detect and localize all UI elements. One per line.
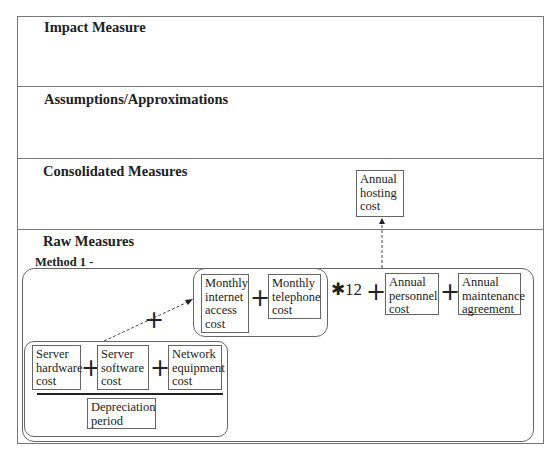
node-annual-personnel-cost: Annual personnel cost bbox=[385, 273, 439, 315]
section-divider bbox=[17, 158, 544, 159]
node-text: Depreciation bbox=[91, 401, 152, 415]
node-text: Annual bbox=[360, 173, 400, 187]
section-title-raw-measures: Raw Measures bbox=[43, 233, 134, 250]
node-annual-maintenance-agreement: Annual maintenance agreement bbox=[458, 273, 521, 315]
node-text: cost bbox=[172, 375, 218, 389]
node-depreciation-period: Depreciation period bbox=[87, 398, 156, 429]
node-text: cost bbox=[389, 303, 435, 317]
fraction-bar bbox=[37, 393, 223, 395]
node-text: Annual bbox=[462, 276, 517, 290]
node-text: internet bbox=[205, 291, 245, 305]
section-divider bbox=[17, 229, 544, 230]
node-text: equipment bbox=[172, 362, 218, 376]
section-title-assumptions: Assumptions/Approximations bbox=[44, 91, 228, 108]
node-text: cost bbox=[36, 375, 77, 389]
node-network-equipment-cost: Network equipment cost bbox=[168, 345, 222, 390]
node-text: agreement bbox=[462, 303, 517, 317]
node-text: cost bbox=[101, 375, 145, 389]
node-text: Annual bbox=[389, 276, 435, 290]
multiply-by-12: ✱12 bbox=[331, 280, 362, 300]
plus-operator: + bbox=[144, 310, 164, 330]
node-server-software-cost: Server software cost bbox=[97, 345, 149, 390]
section-title-consolidated-measures: Consolidated Measures bbox=[43, 163, 187, 180]
node-text: maintenance bbox=[462, 290, 517, 304]
node-text: personnel bbox=[389, 290, 435, 304]
section-title-impact-measure: Impact Measure bbox=[44, 19, 146, 36]
node-text: cost bbox=[272, 304, 317, 318]
node-text: access bbox=[205, 304, 245, 318]
plus-operator: + bbox=[366, 282, 386, 302]
node-annual-hosting-cost: Annual hosting cost bbox=[356, 170, 404, 217]
node-text: period bbox=[91, 415, 152, 429]
node-text: telephone bbox=[272, 291, 317, 305]
node-monthly-telephone-cost: Monthly telephone cost bbox=[268, 274, 321, 319]
node-text: cost bbox=[205, 318, 245, 332]
node-text: Monthly bbox=[272, 277, 317, 291]
node-monthly-internet-access-cost: Monthly internet access cost bbox=[201, 274, 249, 333]
node-server-hardware-cost: Server hardware cost bbox=[32, 345, 81, 390]
node-text: Server bbox=[101, 348, 145, 362]
node-text: software bbox=[101, 362, 145, 376]
node-text: Monthly bbox=[205, 277, 245, 291]
node-text: Server bbox=[36, 348, 77, 362]
node-text: Network bbox=[172, 348, 218, 362]
node-text: hardware bbox=[36, 362, 77, 376]
node-text: cost bbox=[360, 200, 400, 214]
node-text: hosting bbox=[360, 187, 400, 201]
section-divider bbox=[17, 86, 544, 87]
